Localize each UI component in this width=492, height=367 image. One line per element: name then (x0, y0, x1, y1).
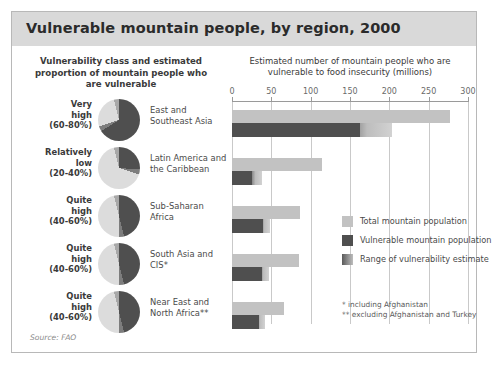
footnote-1: * including Afghanistan (342, 300, 492, 310)
bar-total-mountain-population (232, 302, 284, 315)
region-row: Relativelylow(20-40%)Latin America and t… (30, 147, 220, 194)
axis-tick-label: 200 (382, 87, 397, 96)
bar-total-mountain-population (232, 206, 300, 219)
vulnerability-class-line1: Relatively (30, 147, 92, 158)
page-title: Vulnerable mountain people, by region, 2… (26, 20, 401, 36)
chart-header: Estimated number of mountain people who … (228, 56, 472, 78)
axis-tick (468, 97, 469, 102)
bar-vulnerable-mountain-population (232, 219, 263, 233)
vulnerability-class-line1: Quite (30, 243, 92, 254)
chart-legend: Total mountain populationVulnerable moun… (342, 215, 492, 272)
legend-label: Total mountain population (360, 216, 467, 226)
legend-swatch (342, 235, 353, 246)
axis-tick (350, 97, 351, 102)
axis-tick (429, 97, 430, 102)
axis-tick-label: 50 (266, 87, 276, 96)
vulnerability-class-line2: high (30, 302, 92, 313)
bar-chart-plot: 050100150200250300 (232, 102, 468, 324)
title-bar: Vulnerable mountain people, by region, 2… (12, 12, 476, 46)
vulnerability-class-range: (20-40%) (30, 168, 92, 179)
vulnerability-pie-chart (98, 243, 142, 287)
bar-total-mountain-population (232, 254, 299, 267)
axis-tick-label: 0 (229, 87, 234, 96)
gridline (468, 102, 469, 324)
vulnerability-class-range: (40-60%) (30, 312, 92, 323)
bar-group (232, 110, 468, 137)
vulnerability-class-range: (40-60%) (30, 264, 92, 275)
source-note: Source: FAO (30, 333, 76, 342)
bar-vulnerable-mountain-population (232, 123, 360, 137)
vulnerability-class-line2: high (30, 254, 92, 265)
vulnerability-pie-chart (98, 147, 142, 191)
footnotes: * including Afghanistan ** excluding Afg… (342, 300, 492, 320)
vulnerability-class-label: Quitehigh(40-60%) (30, 291, 92, 323)
vulnerability-class-label: Relativelylow(20-40%) (30, 147, 92, 179)
vulnerability-class-line1: Quite (30, 195, 92, 206)
region-row: Quitehigh(40-60%)Sub-Saharan Africa (30, 195, 220, 242)
vulnerability-class-line1: Very (30, 99, 92, 110)
region-row: Quitehigh(40-60%)Near East and North Afr… (30, 291, 220, 338)
axis-tick-label: 100 (303, 87, 318, 96)
vulnerability-class-line2: high (30, 110, 92, 121)
region-name: Near East and North Africa** (150, 297, 228, 319)
region-name: Latin America and the Caribbean (150, 153, 228, 175)
axis-tick (232, 97, 233, 102)
legend-swatch (342, 216, 353, 227)
region-name: Sub-Saharan Africa (150, 201, 228, 223)
bar-total-mountain-population (232, 110, 450, 123)
legend-label: Range of vulnerability estimate (360, 254, 489, 264)
axis-tick-label: 150 (342, 87, 357, 96)
vulnerability-class-label: Veryhigh(60-80%) (30, 99, 92, 131)
legend-swatch (342, 254, 353, 265)
axis-tick (311, 97, 312, 102)
axis-tick (271, 97, 272, 102)
vulnerability-pie-chart (98, 99, 142, 143)
region-row: Quitehigh(40-60%)South Asia and CIS* (30, 243, 220, 290)
bar-total-mountain-population (232, 158, 322, 171)
infographic-panel: Vulnerable mountain people, by region, 2… (11, 11, 477, 353)
vulnerability-class-range: (40-60%) (30, 216, 92, 227)
vulnerability-class-line2: low (30, 158, 92, 169)
vulnerability-pie-chart (98, 291, 142, 335)
vulnerability-class-line1: Quite (30, 291, 92, 302)
vulnerability-class-line2: high (30, 206, 92, 217)
axis-tick-label: 300 (460, 87, 475, 96)
vulnerability-pie-chart (98, 195, 142, 239)
bar-vulnerable-mountain-population (232, 267, 262, 281)
region-row: Veryhigh(60-80%)East and Southeast Asia (30, 99, 220, 146)
vulnerability-class-range: (60-80%) (30, 120, 92, 131)
bar-vulnerable-mountain-population (232, 171, 252, 185)
vulnerability-class-label: Quitehigh(40-60%) (30, 195, 92, 227)
axis-tick-label: 250 (421, 87, 436, 96)
legend-row: Range of vulnerability estimate (342, 253, 492, 268)
bar-group (232, 158, 468, 185)
region-name: East and Southeast Asia (150, 105, 228, 127)
legend-row: Total mountain population (342, 215, 492, 230)
region-name: South Asia and CIS* (150, 249, 228, 271)
bar-vulnerable-mountain-population (232, 315, 259, 329)
legend-label: Vulnerable mountain population (360, 235, 491, 245)
left-column-header: Vulnerability class and estimated propor… (30, 56, 212, 91)
vulnerability-class-label: Quitehigh(40-60%) (30, 243, 92, 275)
footnote-2: ** excluding Afghanistan and Turkey (342, 310, 492, 320)
legend-row: Vulnerable mountain population (342, 234, 492, 249)
axis-tick (389, 97, 390, 102)
